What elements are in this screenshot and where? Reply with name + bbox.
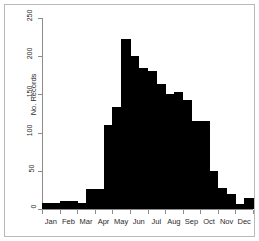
histogram-figure: No. Records 050100150200250 JanFebMarApr… <box>0 0 259 241</box>
x-axis-tick <box>183 210 184 214</box>
plot-area <box>42 18 253 209</box>
x-axis-tick-label: Oct <box>203 217 215 226</box>
x-axis-tick <box>218 210 219 214</box>
x-axis-tick-label: Feb <box>62 217 75 226</box>
y-axis-tick-label: 100 <box>0 127 36 134</box>
x-axis-tick <box>77 210 78 214</box>
histogram-bar <box>244 198 253 209</box>
x-axis-tick <box>95 210 96 214</box>
x-axis-tick <box>60 210 61 214</box>
x-axis-tick <box>165 210 166 214</box>
x-axis-tick-label: Jul <box>151 217 161 226</box>
x-axis-tick <box>200 210 201 214</box>
y-axis-tick-label: 0 <box>0 203 36 210</box>
x-axis-tick-label: Dec <box>238 217 251 226</box>
y-axis-tick-label: 50 <box>0 165 36 172</box>
x-axis-tick <box>42 210 43 214</box>
x-axis-tick <box>130 210 131 214</box>
y-axis-tick-label: 150 <box>0 88 36 95</box>
x-axis-tick-label: Apr <box>98 217 110 226</box>
x-axis-tick-label: Jun <box>133 217 145 226</box>
x-axis-tick-label: Jan <box>45 217 57 226</box>
x-axis-tick <box>235 210 236 214</box>
y-axis-tick-label: 250 <box>0 12 36 19</box>
x-axis-tick-label: Aug <box>167 217 180 226</box>
x-axis-tick <box>253 210 254 214</box>
x-axis-tick-label: May <box>114 217 128 226</box>
x-axis-tick-label: Nov <box>220 217 233 226</box>
x-axis-tick-label: Sep <box>185 217 198 226</box>
x-axis-tick <box>112 210 113 214</box>
x-axis-tick <box>148 210 149 214</box>
x-axis-tick-label: Mar <box>79 217 92 226</box>
y-axis-tick-label: 200 <box>0 50 36 57</box>
